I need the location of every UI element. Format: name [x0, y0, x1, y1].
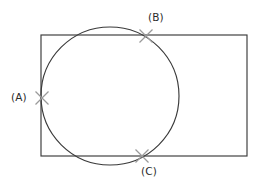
geometry-figure: (A) (B) (C) [0, 0, 262, 183]
point-label-c: (C) [141, 166, 157, 177]
marker-b-cross [140, 30, 153, 43]
marker-a-cross [36, 92, 49, 105]
rectangle-shape [41, 35, 247, 156]
point-label-b: (B) [148, 12, 164, 23]
point-label-a: (A) [11, 92, 27, 103]
circle-shape [41, 27, 179, 165]
figure-canvas [0, 0, 262, 183]
